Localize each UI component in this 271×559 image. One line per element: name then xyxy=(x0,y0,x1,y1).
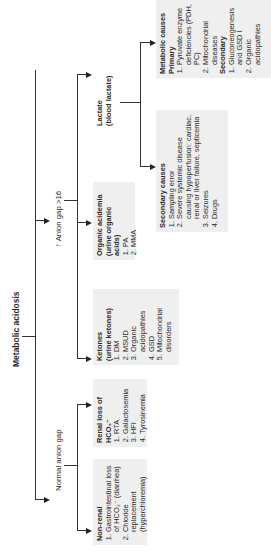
list-item: Mitochondrial diseases xyxy=(202,4,219,65)
non-renal-box: Non-renal Gastrointestinal loss of HCO₃⁻… xyxy=(93,459,147,545)
box-subtitle: (blood lactate) xyxy=(105,66,114,126)
root-label: Metabolic acidosis xyxy=(12,291,21,367)
arrow-icon xyxy=(86,356,92,362)
connector xyxy=(77,405,78,531)
arrow-icon xyxy=(86,220,92,226)
arrow-icon xyxy=(44,497,50,503)
arrow-icon xyxy=(86,72,92,78)
metabolic-acidosis-flowchart: Metabolic acidosis Normal anion gap ↑ An… xyxy=(0,0,271,559)
organic-acidemia-box: Organic acidemia (urine organic acids) P… xyxy=(93,182,135,260)
box-subtitle: (urine organic acids) xyxy=(105,186,122,256)
list-item: Mitochondrial disorders xyxy=(156,293,173,352)
connector xyxy=(64,200,77,201)
connector xyxy=(120,102,140,103)
metabolic-causes-box: Metabolic causes Primary Pyruvate enzyme… xyxy=(156,0,271,78)
box-title: Renal loss of HCO₃⁻ xyxy=(96,383,113,443)
secondary-causes-box: Secondary causes Sampling error Severe s… xyxy=(156,110,228,232)
arrow-icon xyxy=(86,528,92,534)
normal-anion-gap-label: Normal anion gap xyxy=(54,429,63,491)
list-item: Organic acidopathies xyxy=(245,4,262,65)
connector xyxy=(140,43,141,167)
ketones-box: Ketones (urine ketones) DM MSUD Organic … xyxy=(93,289,179,365)
list-item: Gluconeogenesis and GSD I xyxy=(228,4,245,65)
list-item: Organic acidopathies xyxy=(130,293,147,352)
arrow-icon xyxy=(44,218,50,224)
list-item: Severe systemic disease causing hypoperf… xyxy=(176,114,202,219)
lactate-node: Lactate (blood lactate) xyxy=(93,62,116,130)
connector xyxy=(64,465,77,466)
list-item: Gastrointestinal loss of HCO₃⁻ (diarrhea… xyxy=(105,463,122,532)
connector xyxy=(77,75,78,359)
high-anion-gap-label: ↑ Anion gap >16 xyxy=(54,191,63,247)
list-item: Drugs xyxy=(211,114,220,219)
list-item: MMA xyxy=(130,186,139,247)
connector xyxy=(35,70,36,500)
arrow-icon xyxy=(86,402,92,408)
renal-loss-box: Renal loss of HCO₃⁻ RTA Galactosemia HFI… xyxy=(93,379,147,447)
list-item: Tyrosinemia xyxy=(139,383,148,434)
list-item: Pyruvate enzyme deficiencies (PDH, PC) xyxy=(176,4,202,65)
list-item: Chloride replacement (hyperchloremia) xyxy=(122,463,148,532)
connector xyxy=(22,336,35,337)
